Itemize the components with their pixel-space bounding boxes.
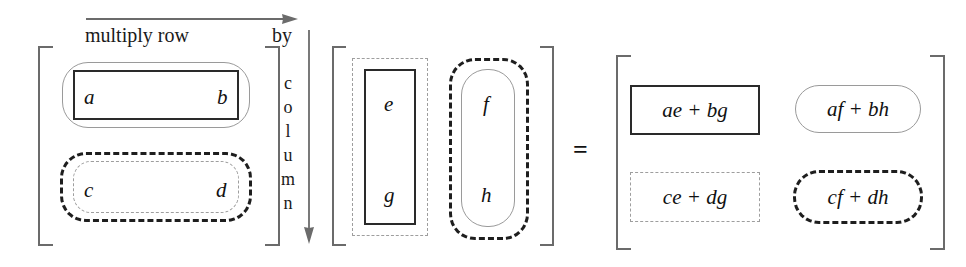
- column-letter-o: o: [284, 96, 293, 120]
- matrix-product-left-bracket: [616, 55, 631, 250]
- equals-sign: =: [573, 135, 588, 165]
- matrix-multiplication-figure: multiply row by c o l u m n a b c d e g: [0, 0, 966, 267]
- matrix-product-right-bracket: [930, 55, 945, 250]
- matrix-a-cell-d: d: [216, 178, 227, 203]
- matrix-product-cell-22: cf + dh: [793, 170, 923, 224]
- matrix-a-right-bracket: [265, 46, 280, 246]
- matrix-product-cell-22-label: cf + dh: [828, 185, 889, 210]
- by-label: by: [272, 24, 292, 47]
- matrix-b-left-bracket: [332, 46, 346, 246]
- matrix-b-right-bracket: [540, 46, 554, 246]
- arrow-down-icon: [300, 28, 318, 246]
- multiply-row-label: multiply row: [85, 24, 189, 47]
- matrix-a-row1-outline-inner: [73, 70, 239, 120]
- matrix-product-cell-12: af + bh: [795, 85, 921, 133]
- matrix-b-cell-h: h: [481, 183, 492, 208]
- column-letter-m: m: [281, 168, 295, 192]
- column-letter-u: u: [284, 144, 293, 168]
- matrix-a-cell-b: b: [217, 85, 228, 110]
- matrix-b-cell-e: e: [384, 92, 393, 117]
- column-letter-c: c: [284, 72, 292, 96]
- matrix-product-cell-21-label: ce + dg: [663, 185, 727, 210]
- matrix-product-cell-21: ce + dg: [630, 172, 760, 222]
- matrix-product-cell-12-label: af + bh: [827, 97, 889, 122]
- matrix-a-cell-c: c: [84, 178, 93, 203]
- matrix-product-cell-11: ae + bg: [630, 85, 760, 135]
- matrix-b-cell-g: g: [384, 183, 395, 208]
- matrix-product-cell-11-label: ae + bg: [662, 98, 728, 123]
- column-letter-l: l: [285, 120, 290, 144]
- column-label: c o l u m n: [279, 72, 297, 216]
- matrix-b-cell-f: f: [483, 92, 489, 117]
- matrix-a-row2-outline-inner: [73, 161, 239, 213]
- column-letter-n: n: [284, 192, 293, 216]
- matrix-a-cell-a: a: [84, 85, 95, 110]
- matrix-a-left-bracket: [38, 46, 53, 246]
